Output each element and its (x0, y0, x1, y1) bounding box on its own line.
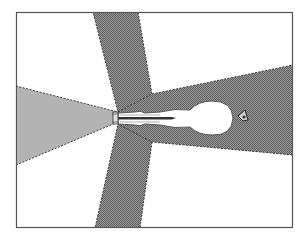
diagram-canvas (0, 0, 302, 243)
device-nozzle-icon (112, 112, 119, 124)
